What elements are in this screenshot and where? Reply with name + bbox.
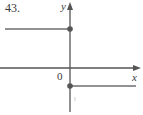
origin-label: 0 (57, 71, 63, 82)
y-axis-label: y (61, 1, 66, 12)
lower-closed-dot (67, 83, 73, 89)
step-function-plot (0, 0, 143, 115)
x-axis-label: x (132, 72, 137, 83)
upper-closed-dot (67, 26, 73, 32)
graph-figure: 43. y 0 x (0, 0, 143, 115)
y-axis-arrow-icon (67, 2, 73, 10)
problem-number: 43. (5, 2, 20, 14)
